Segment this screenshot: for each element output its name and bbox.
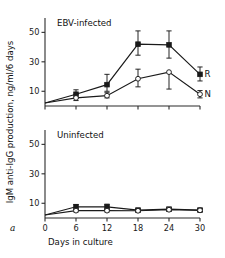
data-point-uninfected-n-6 bbox=[74, 208, 79, 213]
x-tick-label-18: 18 bbox=[133, 223, 143, 233]
data-point-uninfected-n-12 bbox=[105, 208, 110, 213]
data-point-uninfected-n-30 bbox=[198, 208, 203, 213]
x-axis-title: Days in culture bbox=[48, 237, 113, 247]
panel-title-ebv-infected: EBV-infected bbox=[57, 18, 112, 28]
chart-canvas: 103050EBV-infectedRN1030500612182430Unin… bbox=[0, 0, 225, 258]
data-point-uninfected-n-24 bbox=[167, 207, 172, 212]
data-point-ebv-infected-r-24 bbox=[167, 43, 172, 48]
figure-container: 103050EBV-infectedRN1030500612182430Unin… bbox=[0, 0, 225, 258]
data-point-ebv-infected-r-18 bbox=[136, 42, 141, 47]
y-tick-label-50: 50 bbox=[29, 27, 39, 37]
x-tick-label-6: 6 bbox=[73, 223, 78, 233]
x-tick-label-30: 30 bbox=[195, 223, 205, 233]
series-label-n: N bbox=[205, 89, 211, 99]
data-point-ebv-infected-n-18 bbox=[136, 76, 141, 81]
y-tick-label-10: 10 bbox=[29, 86, 39, 96]
y-axis-title: IgM anti-IgG production, ng/ml/6 days bbox=[5, 40, 15, 203]
x-tick-label-24: 24 bbox=[164, 223, 174, 233]
y-tick-label-10: 10 bbox=[29, 198, 39, 208]
y-tick-label-30: 30 bbox=[29, 57, 39, 67]
panel-title-uninfected: Uninfected bbox=[57, 130, 104, 140]
series-line-uninfected-n bbox=[45, 210, 200, 215]
series-line-ebv-infected-n bbox=[45, 72, 200, 103]
x-tick-label-0: 0 bbox=[42, 223, 47, 233]
data-point-ebv-infected-n-12 bbox=[105, 93, 110, 98]
data-point-ebv-infected-n-24 bbox=[167, 70, 172, 75]
figure-letter: a bbox=[10, 223, 15, 233]
series-line-ebv-infected-r bbox=[45, 44, 200, 103]
y-tick-label-50: 50 bbox=[29, 139, 39, 149]
y-tick-label-30: 30 bbox=[29, 169, 39, 179]
data-point-ebv-infected-n-30 bbox=[198, 92, 203, 97]
data-point-ebv-infected-r-30 bbox=[198, 72, 203, 77]
data-point-ebv-infected-n-6 bbox=[74, 96, 79, 101]
data-point-uninfected-n-18 bbox=[136, 208, 141, 213]
data-point-ebv-infected-r-12 bbox=[105, 82, 110, 87]
series-label-r: R bbox=[205, 69, 211, 79]
x-tick-label-12: 12 bbox=[102, 223, 112, 233]
